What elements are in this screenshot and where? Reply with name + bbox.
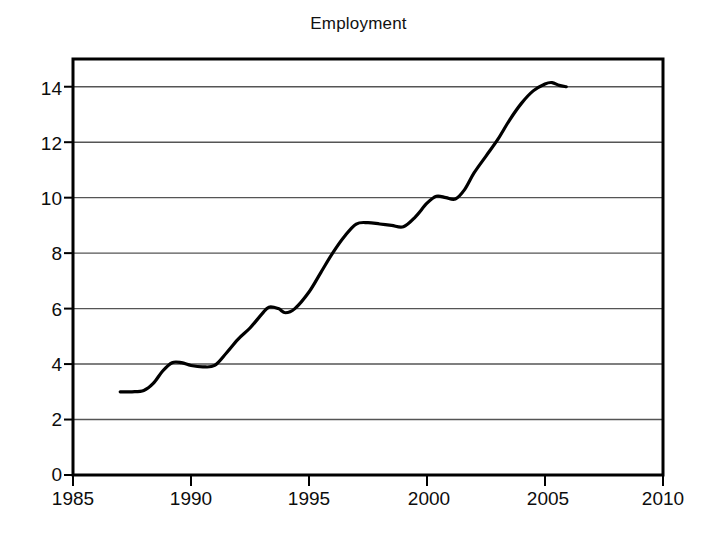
chart-figure: Employment 14 12 10 8 6 4 2 0 1985 1990 … [0,0,717,538]
plot-canvas [0,0,717,538]
axis-ticks [64,87,663,486]
data-series-employment [120,82,566,391]
gridlines [73,87,663,420]
plot-frame [73,59,663,475]
